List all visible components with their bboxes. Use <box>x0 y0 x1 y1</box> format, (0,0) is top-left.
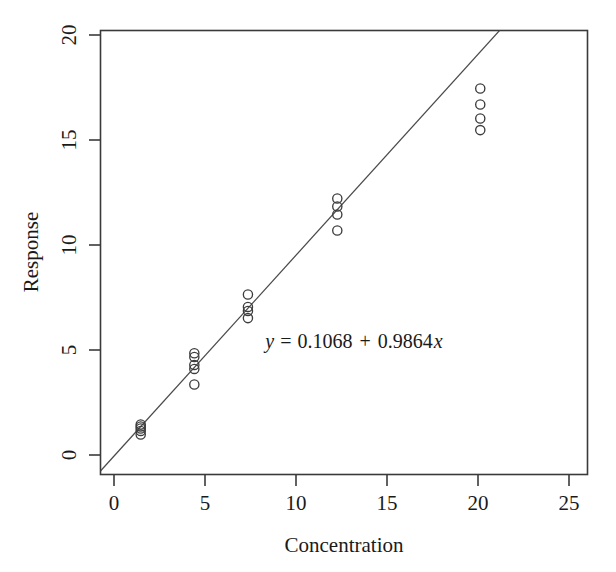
data-point <box>476 84 485 93</box>
data-point <box>476 114 485 123</box>
data-point <box>190 380 199 389</box>
x-tick-label-10: 10 <box>286 491 307 515</box>
regression-line <box>101 0 588 471</box>
x-tick-label-25: 25 <box>559 491 580 515</box>
regression-scatter-figure: 0 5 10 15 20 25 0 5 10 15 20 Concentrati… <box>0 0 616 572</box>
equation-equals: = <box>280 330 291 352</box>
plot-content <box>101 0 588 471</box>
equation-plus: + <box>360 330 371 352</box>
plot-frame <box>101 31 588 475</box>
data-points-group <box>136 84 485 439</box>
data-point <box>476 100 485 109</box>
equation-y-symbol: y <box>263 330 274 353</box>
equation-x-symbol: x <box>433 330 443 352</box>
data-point <box>243 290 252 299</box>
x-axis-title: Concentration <box>285 533 404 557</box>
x-tick-label-20: 20 <box>468 491 489 515</box>
regression-equation-label: y=0.1068+0.9864x <box>263 330 442 353</box>
y-tick-label-15: 15 <box>57 130 81 151</box>
equation-intercept: 0.1068 <box>298 330 353 352</box>
x-axis-ticks <box>114 475 569 486</box>
x-axis-tick-labels: 0 5 10 15 20 25 <box>109 491 580 515</box>
y-axis-tick-labels: 0 5 10 15 20 <box>57 25 81 461</box>
y-tick-label-20: 20 <box>57 25 81 46</box>
data-point <box>333 226 342 235</box>
equation-slope: 0.9864 <box>378 330 433 352</box>
x-tick-label-0: 0 <box>109 491 120 515</box>
y-tick-label-0: 0 <box>57 450 81 461</box>
y-tick-label-10: 10 <box>57 235 81 256</box>
x-tick-label-15: 15 <box>377 491 398 515</box>
y-axis-title: Response <box>19 212 43 293</box>
y-tick-label-5: 5 <box>57 345 81 356</box>
data-point <box>476 126 485 135</box>
y-axis-ticks <box>89 35 100 455</box>
plot-canvas: 0 5 10 15 20 25 0 5 10 15 20 Concentrati… <box>0 0 616 572</box>
x-tick-label-5: 5 <box>200 491 211 515</box>
